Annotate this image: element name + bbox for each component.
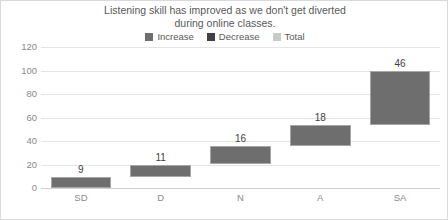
x-tick-label-D: D: [121, 192, 201, 208]
bar-slot: 9: [41, 47, 121, 188]
y-tick-label: 100: [1, 66, 37, 76]
bar-slot: 11: [121, 47, 201, 188]
chart-title: Listening skill has improved as we don't…: [1, 4, 448, 30]
bar-series: 911161846: [41, 47, 440, 188]
bar-value-label: 18: [280, 112, 360, 123]
legend-entry-decrease[interactable]: Decrease: [207, 31, 260, 42]
bar-value-label: 16: [201, 133, 281, 144]
bar-value-label: 9: [41, 164, 121, 175]
bar-slot: 46: [360, 47, 440, 188]
legend-swatch-increase: [145, 33, 153, 41]
legend-entry-total[interactable]: Total: [273, 31, 305, 42]
bar-A[interactable]: [290, 125, 351, 146]
x-tick-label-SA: SA: [360, 192, 440, 208]
x-axis: SDDNASA: [41, 192, 440, 208]
bar-value-label: 11: [121, 152, 201, 163]
bar-value-label: 46: [360, 58, 440, 69]
bar-D[interactable]: [130, 165, 191, 178]
legend-entry-increase[interactable]: Increase: [145, 31, 193, 42]
chart-legend: Increase Decrease Total: [1, 31, 448, 42]
legend-label-decrease: Decrease: [219, 31, 260, 42]
y-tick-label: 80: [1, 89, 37, 99]
y-tick-label: 20: [1, 160, 37, 170]
y-axis: 020406080100120: [1, 47, 37, 188]
plot-area: 911161846: [41, 47, 440, 188]
y-tick-label: 120: [1, 42, 37, 52]
y-tick-label: 0: [1, 183, 37, 193]
x-tick-label-A: A: [280, 192, 360, 208]
bar-SD[interactable]: [51, 177, 112, 188]
legend-label-increase: Increase: [157, 31, 193, 42]
bar-slot: 16: [201, 47, 281, 188]
bar-slot: 18: [280, 47, 360, 188]
x-tick-label-SD: SD: [41, 192, 121, 208]
chart-container: Listening skill has improved as we don't…: [0, 0, 448, 220]
legend-swatch-decrease: [207, 33, 215, 41]
x-tick-label-N: N: [201, 192, 281, 208]
bar-N[interactable]: [210, 146, 271, 165]
gridline: [41, 188, 440, 189]
y-tick-label: 40: [1, 136, 37, 146]
bar-SA[interactable]: [370, 71, 431, 125]
y-tick-label: 60: [1, 113, 37, 123]
legend-swatch-total: [273, 33, 281, 41]
legend-label-total: Total: [285, 31, 305, 42]
